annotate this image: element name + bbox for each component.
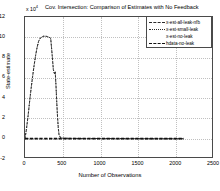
legend-line-sample-dash-dot bbox=[149, 26, 165, 32]
series-line bbox=[25, 36, 184, 138]
x-tick-label: 1500 bbox=[131, 160, 143, 166]
x-tick-label: 0 bbox=[23, 160, 26, 166]
x-axis-label: Number of Observations bbox=[0, 172, 220, 178]
legend-item: x-est-no-leak bbox=[149, 33, 209, 40]
x-tick-label: 2000 bbox=[169, 160, 181, 166]
y-axis-label: State-estimate bbox=[5, 41, 11, 101]
y-tick-label: 10 bbox=[0, 33, 5, 39]
y-tick-label: 2 bbox=[0, 114, 5, 120]
figure-container: x 104 Cov. Intersection: Comparison of E… bbox=[0, 0, 220, 191]
legend-item: x-est-small-leak bbox=[149, 26, 209, 33]
legend-box: x-est-all-leak-nfb x-est-small-leak x-es… bbox=[146, 16, 212, 48]
chart-title: Cov. Intersection: Comparison of Estimat… bbox=[45, 4, 198, 10]
y-tick-label: -2 bbox=[0, 155, 5, 161]
legend-label: x-est-all-leak-nfb bbox=[166, 20, 200, 25]
legend-label: hdata-no-leak bbox=[166, 41, 194, 46]
y-tick-label: 0 bbox=[0, 134, 5, 140]
legend-item: x-est-all-leak-nfb bbox=[149, 19, 209, 26]
x-tick-label: 500 bbox=[57, 160, 66, 166]
y-axis-exponent: x 104 bbox=[26, 4, 38, 12]
x-tick-label: 1000 bbox=[94, 160, 106, 166]
legend-line-sample-dash-dot bbox=[149, 19, 165, 25]
legend-item: hdata-no-leak bbox=[149, 40, 209, 47]
legend-line-sample-thick-dash bbox=[149, 40, 165, 46]
x-tick-label: 2500 bbox=[207, 160, 219, 166]
legend-line-sample-none bbox=[149, 33, 165, 39]
series-line bbox=[25, 36, 184, 138]
legend-label: x-est-no-leak bbox=[166, 34, 193, 39]
y-tick-label: 12 bbox=[0, 13, 5, 19]
legend-label: x-est-small-leak bbox=[166, 27, 198, 32]
